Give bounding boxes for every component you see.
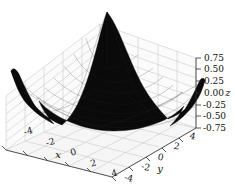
z-axis-title: z bbox=[224, 87, 231, 98]
z-tick-label: 0.75 bbox=[204, 53, 224, 63]
y-tick-label: 4 bbox=[189, 131, 197, 142]
z-tick-label: -0.25 bbox=[203, 100, 226, 110]
z-tick-label: -0.75 bbox=[203, 123, 226, 133]
plot-canvas: -4 -2 0 2 4 -4 -2 0 2 4 0.75 0.50 0.25 0… bbox=[0, 0, 235, 190]
surface-plot-figure: -4 -2 0 2 4 -4 -2 0 2 4 0.75 0.50 0.25 0… bbox=[0, 0, 235, 190]
z-axis-ticks bbox=[196, 58, 201, 128]
y-tick-label: -2 bbox=[140, 161, 151, 173]
x-axis-title: x bbox=[55, 149, 61, 160]
z-tick-label: 0.00 bbox=[204, 88, 224, 98]
y-tick-label: -4 bbox=[123, 172, 134, 184]
y-axis-title: y bbox=[156, 163, 163, 174]
z-tick-labels: 0.75 0.50 0.25 0.00 -0.25 -0.50 -0.75 bbox=[203, 53, 226, 133]
y-tick-label: 0 bbox=[157, 152, 165, 163]
z-tick-label: -0.50 bbox=[203, 111, 226, 121]
z-tick-label: 0.50 bbox=[204, 64, 224, 74]
z-tick-label: 0.25 bbox=[204, 76, 224, 86]
y-tick-label: 2 bbox=[173, 141, 181, 152]
